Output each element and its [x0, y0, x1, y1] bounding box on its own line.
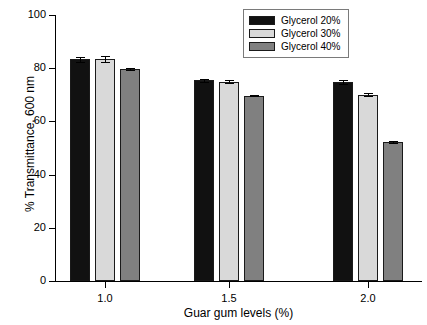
error-bar-cap: [339, 84, 348, 85]
error-bar-cap: [101, 62, 110, 63]
error-bar-cap: [389, 141, 398, 142]
bar: [194, 80, 214, 281]
x-axis-title: Guar gum levels (%): [55, 306, 422, 320]
error-bar-cap: [364, 93, 373, 94]
bar: [358, 95, 378, 281]
chart-figure: 100806040200 1.01.52.0 Guar gum levels (…: [0, 0, 427, 325]
bar: [120, 69, 140, 281]
error-bar-cap: [200, 79, 209, 80]
error-bar-cap: [364, 96, 373, 97]
error-bar-cap: [126, 68, 135, 69]
error-bar-cap: [101, 56, 110, 57]
error-bar-cap: [389, 143, 398, 144]
error-bar-cap: [200, 82, 209, 83]
bar: [95, 59, 115, 281]
bar: [383, 142, 403, 281]
error-bar-cap: [225, 80, 234, 81]
legend-item-label: Glycerol 40%: [281, 41, 340, 52]
bar: [219, 82, 239, 282]
bar: [333, 82, 353, 281]
error-bar-cap: [76, 57, 85, 58]
y-axis-title: % Transmittance, 600 nm: [23, 4, 37, 284]
error-bar-cap: [250, 96, 259, 97]
bar: [70, 59, 90, 281]
legend-item-label: Glycerol 30%: [281, 28, 340, 39]
bar: [244, 96, 264, 281]
error-bar-cap: [76, 62, 85, 63]
legend-item: Glycerol 40%: [249, 40, 343, 53]
legend-swatch-icon: [249, 42, 275, 51]
legend-swatch-icon: [249, 29, 275, 38]
plot-area: [0, 0, 427, 325]
legend-item: Glycerol 30%: [249, 27, 343, 40]
error-bar-cap: [126, 70, 135, 71]
legend-item-label: Glycerol 20%: [281, 15, 340, 26]
legend-swatch-icon: [249, 16, 275, 25]
legend: Glycerol 20%Glycerol 30%Glycerol 40%: [243, 9, 349, 58]
error-bar-cap: [225, 83, 234, 84]
error-bar-cap: [339, 80, 348, 81]
legend-item: Glycerol 20%: [249, 14, 343, 27]
